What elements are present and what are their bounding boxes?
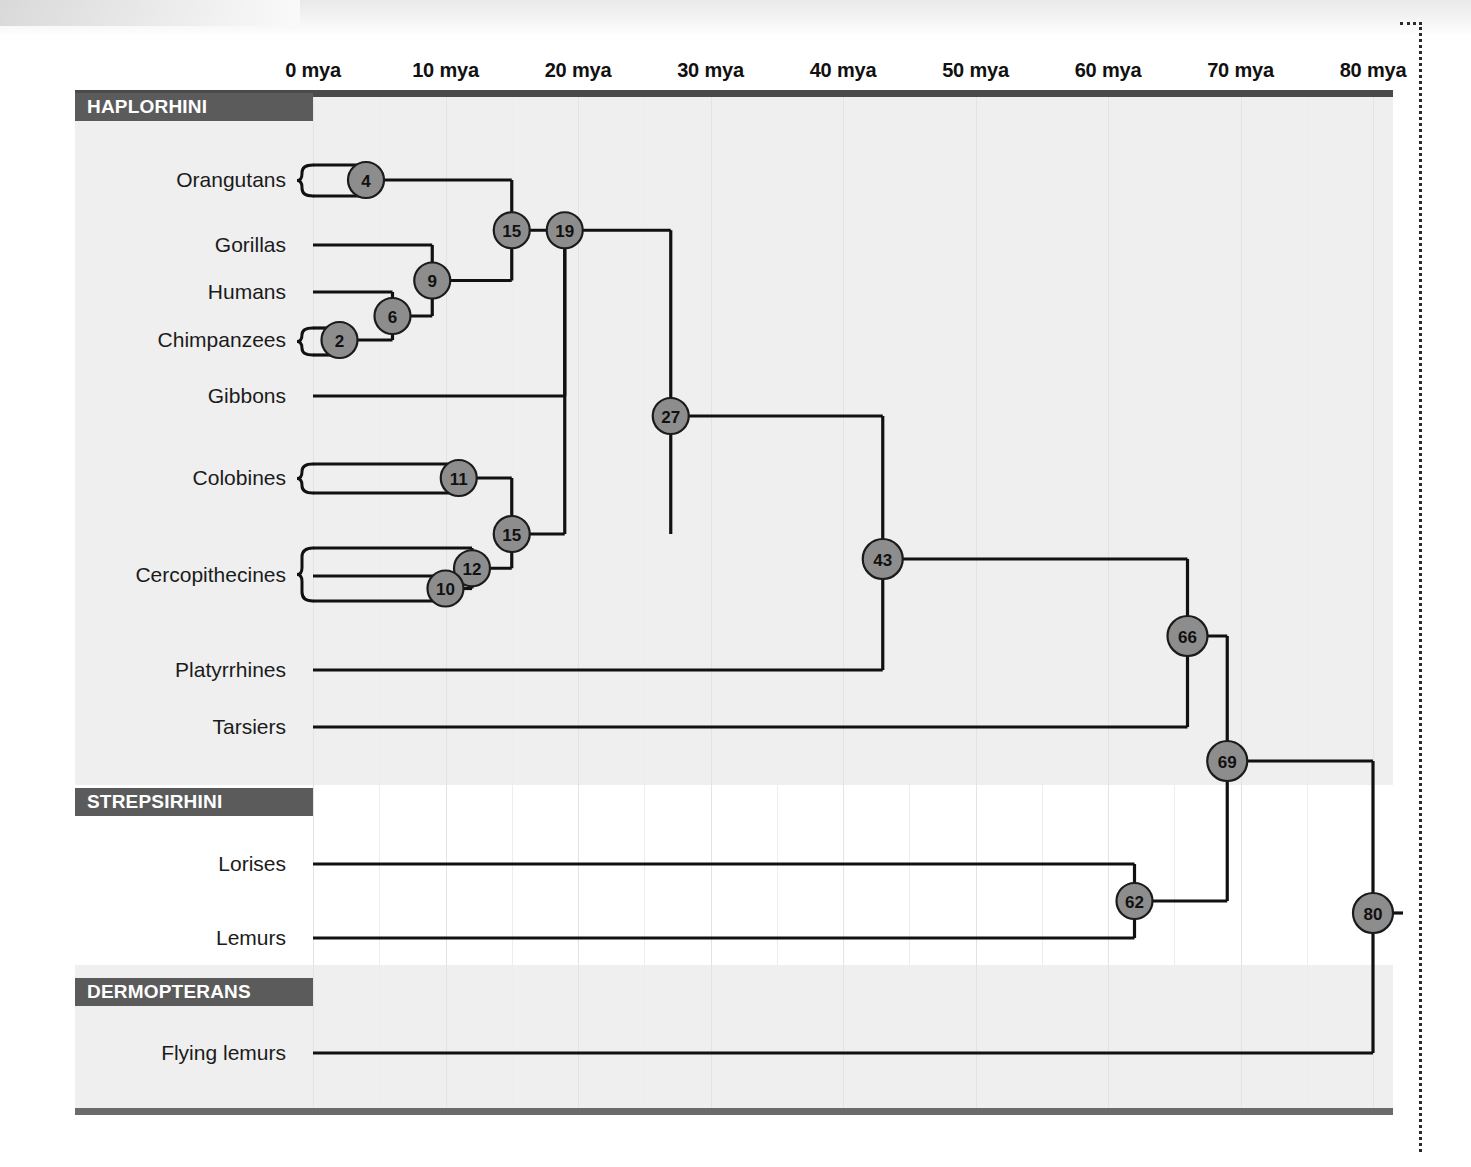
node-age-label-n15b: 15 (502, 526, 521, 545)
node-age-label-n27: 27 (661, 408, 680, 427)
tree-node-10-n10[interactable]: 10 (428, 571, 464, 607)
node-age-label-n19: 19 (555, 222, 574, 241)
node-age-label-n62: 62 (1125, 893, 1144, 912)
tree-node-9-n9[interactable]: 9 (414, 263, 450, 299)
node-age-label-n66: 66 (1178, 628, 1197, 647)
tree-node-2-n2[interactable]: 2 (322, 322, 358, 358)
tree-node-66-n66[interactable]: 66 (1168, 616, 1208, 656)
tree-node-15-n15a[interactable]: 15 (494, 212, 530, 248)
brace-cercopithecines (297, 548, 313, 601)
tree-node-15-n15b[interactable]: 15 (494, 516, 530, 552)
node-age-label-n12: 12 (463, 560, 482, 579)
node-age-label-n9: 9 (428, 272, 437, 291)
tree-node-80-n80[interactable]: 80 (1353, 893, 1393, 933)
tree-node-27-n27[interactable]: 27 (653, 398, 689, 434)
tree-node-6-n6[interactable]: 6 (375, 298, 411, 334)
node-age-label-n6: 6 (388, 308, 397, 327)
tree-node-43-n43[interactable]: 43 (863, 539, 903, 579)
tree-node-19-n19[interactable]: 19 (547, 212, 583, 248)
tree-node-11-n11[interactable]: 11 (441, 460, 477, 496)
brace-colobines (297, 464, 313, 493)
node-age-label-n11: 11 (450, 470, 468, 489)
node-age-label-n4: 4 (361, 172, 371, 191)
node-age-label-n2: 2 (335, 332, 344, 351)
phylogenetic-tree-svg: 4159621927111512104366696280 (0, 0, 1471, 1167)
tree-node-4-n4[interactable]: 4 (348, 162, 384, 198)
brace-chimpanzees (297, 328, 313, 355)
node-age-label-n43: 43 (873, 551, 892, 570)
node-age-label-n80: 80 (1364, 905, 1383, 924)
node-age-label-n15a: 15 (502, 222, 521, 241)
tree-node-69-n69[interactable]: 69 (1207, 741, 1247, 781)
node-age-label-n10: 10 (436, 580, 455, 599)
node-age-label-n69: 69 (1218, 753, 1237, 772)
brace-orangutans (297, 165, 313, 196)
tree-node-62-n62[interactable]: 62 (1117, 883, 1153, 919)
